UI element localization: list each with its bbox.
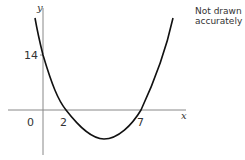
- parabola-curve: [35, 18, 173, 139]
- y-axis-label: y: [36, 2, 43, 13]
- accuracy-note: Not drawn accurately: [195, 6, 242, 26]
- note-line-2: accurately: [195, 16, 242, 26]
- x-tick-label-7: 7: [137, 116, 144, 129]
- origin-label: 0: [27, 116, 34, 129]
- x-axis-label: x: [181, 110, 187, 121]
- x-tick-label-2: 2: [60, 116, 67, 129]
- note-line-1: Not drawn: [195, 6, 242, 16]
- y-tick-label-14: 14: [24, 49, 38, 62]
